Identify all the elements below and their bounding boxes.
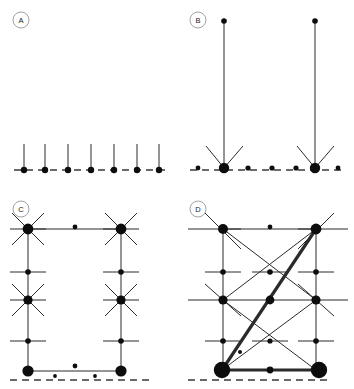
d-node-center-up: [267, 269, 273, 275]
c-hub-right-mid: [116, 295, 125, 304]
d-hub-bot-right: [311, 362, 327, 378]
a-root-1: [21, 167, 27, 173]
d-hub-top-left: [218, 224, 228, 234]
c-loose-dot-1: [73, 364, 78, 369]
b-hub-left: [219, 163, 229, 173]
d-node-right-upper: [313, 269, 319, 275]
d-mid-bot-dot: [267, 367, 274, 374]
d-hub-center-mid: [266, 296, 275, 305]
c-mid-top-dot: [73, 225, 78, 230]
d-node-left-lower: [220, 338, 226, 344]
b-small-2: [245, 165, 250, 170]
c-node-right-upper: [118, 269, 124, 275]
b-small-5: [336, 166, 341, 171]
a-root-3: [65, 167, 71, 173]
b-tip-left: [221, 18, 227, 24]
b-small-3: [269, 165, 274, 170]
d-hub-bot-left: [214, 362, 230, 378]
d-node-center-low: [267, 338, 272, 343]
d-loose-dot: [238, 350, 242, 354]
d-hub-left-mid: [218, 295, 227, 304]
panel-label-c: C: [18, 205, 24, 214]
d-hub-top-right: [311, 224, 322, 235]
a-root-2: [42, 167, 48, 173]
c-node-left-lower: [25, 338, 31, 344]
a-root-7: [156, 167, 162, 173]
c-hub-bot-left: [22, 365, 33, 376]
figure-root: ABCD: [0, 0, 354, 389]
d-node-right-lower: [313, 338, 319, 344]
panel-label-b: B: [195, 16, 200, 25]
c-node-left-upper: [25, 269, 31, 275]
c-hub-left-mid: [23, 295, 32, 304]
c-loose-dot-3: [93, 374, 97, 378]
b-small-1: [196, 166, 201, 171]
d-mid-top-dot: [268, 225, 273, 230]
d-node-left-upper: [220, 269, 226, 275]
c-hub-top-right: [116, 224, 127, 235]
figure-background: [0, 0, 354, 389]
b-hub-right: [310, 163, 320, 173]
b-small-4: [293, 165, 298, 170]
c-hub-top-left: [23, 224, 34, 235]
c-hub-bot-right: [115, 365, 126, 376]
b-tip-right: [312, 18, 318, 24]
c-node-right-lower: [118, 338, 124, 344]
a-root-6: [134, 167, 140, 173]
d-hub-right-mid: [311, 295, 320, 304]
panel-label-a: A: [18, 16, 23, 25]
c-loose-dot-2: [53, 374, 57, 378]
a-root-4: [88, 167, 94, 173]
panel-label-d: D: [195, 205, 201, 214]
a-root-5: [111, 167, 117, 173]
figure-canvas: ABCD: [0, 0, 354, 389]
